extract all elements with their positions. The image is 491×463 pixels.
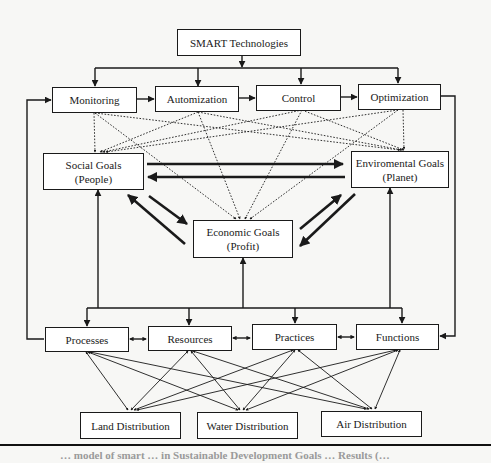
- environmental-goals-title: Enviromental Goals: [356, 156, 444, 170]
- resources-label: Resources: [167, 332, 212, 346]
- optimization-box: Optimization: [358, 84, 441, 110]
- water-distribution-box: Water Distribution: [197, 412, 298, 439]
- functions-box: Functions: [356, 324, 439, 350]
- processes-label: Processes: [66, 333, 109, 347]
- processes-box: Processes: [45, 327, 129, 352]
- automization-label: Automization: [167, 92, 228, 106]
- air-distribution-box: Air Distribution: [321, 411, 422, 437]
- social-goals-subtitle: (People): [75, 172, 112, 186]
- social-goals-title: Social Goals: [66, 158, 122, 172]
- smart-technologies-label: SMART Technologies: [190, 36, 288, 50]
- land-distribution-box: Land Distribution: [80, 412, 181, 439]
- economic-goals-title: Economic Goals: [206, 225, 279, 239]
- practices-box: Practices: [252, 324, 337, 350]
- monitoring-box: Monitoring: [52, 87, 137, 113]
- control-label: Control: [282, 91, 316, 105]
- water-distribution-label: Water Distribution: [207, 419, 289, 433]
- automization-box: Automization: [155, 86, 239, 112]
- page-divider: [0, 444, 491, 446]
- monitoring-label: Monitoring: [69, 93, 119, 107]
- economic-goals-subtitle: (Profit): [227, 239, 259, 253]
- resources-box: Resources: [148, 326, 232, 351]
- air-distribution-label: Air Distribution: [336, 417, 407, 431]
- optimization-label: Optimization: [370, 90, 428, 104]
- social-goals-box: Social Goals (People): [43, 153, 144, 190]
- environmental-goals-subtitle: (Planet): [383, 170, 418, 184]
- control-box: Control: [256, 85, 341, 111]
- environmental-goals-box: Enviromental Goals (Planet): [351, 151, 449, 188]
- figure-caption: … model of smart … in Sustainable Develo…: [0, 449, 491, 463]
- land-distribution-label: Land Distribution: [91, 419, 170, 433]
- functions-label: Functions: [376, 330, 419, 344]
- practices-label: Practices: [275, 330, 315, 344]
- economic-goals-box: Economic Goals (Profit): [193, 220, 293, 258]
- smart-technologies-box: SMART Technologies: [177, 29, 301, 56]
